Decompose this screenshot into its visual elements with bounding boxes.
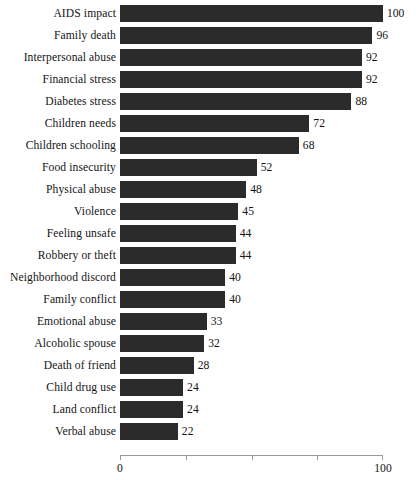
category-label: Food insecurity bbox=[42, 162, 116, 174]
bar bbox=[120, 49, 362, 66]
category-label: Feeling unsafe bbox=[47, 228, 116, 240]
bar bbox=[120, 93, 351, 110]
bar bbox=[120, 423, 178, 440]
value-label: 52 bbox=[261, 162, 273, 174]
bar-row: AIDS impact100 bbox=[0, 5, 416, 22]
bar-row: Violence45 bbox=[0, 203, 416, 220]
category-label: Violence bbox=[74, 206, 116, 218]
bar-row: Food insecurity52 bbox=[0, 159, 416, 176]
bar bbox=[120, 379, 183, 396]
bar-track: 22 bbox=[120, 423, 416, 440]
bar-track: 28 bbox=[120, 357, 416, 374]
bar-row: Robbery or theft44 bbox=[0, 247, 416, 264]
value-label: 40 bbox=[229, 294, 241, 306]
bar-track: 92 bbox=[120, 49, 416, 66]
value-label: 48 bbox=[250, 184, 262, 196]
bar-rows: AIDS impact100Family death96Interpersona… bbox=[0, 5, 416, 445]
bar-track: 44 bbox=[120, 247, 416, 264]
bar-row: Family conflict40 bbox=[0, 291, 416, 308]
bar bbox=[120, 357, 194, 374]
value-label: 96 bbox=[376, 30, 388, 42]
bar bbox=[120, 27, 372, 44]
bar bbox=[120, 181, 246, 198]
category-label: Verbal abuse bbox=[55, 426, 116, 438]
bar-row: Children schooling68 bbox=[0, 137, 416, 154]
category-label: Physical abuse bbox=[46, 184, 116, 196]
category-label: Interpersonal abuse bbox=[24, 52, 116, 64]
category-label: Alcoholic spouse bbox=[34, 338, 116, 350]
axis-tick-label: 100 bbox=[374, 463, 391, 475]
bar-track: 52 bbox=[120, 159, 416, 176]
bar-track: 33 bbox=[120, 313, 416, 330]
value-label: 24 bbox=[187, 404, 199, 416]
horizontal-bar-chart: AIDS impact100Family death96Interpersona… bbox=[0, 0, 416, 480]
category-label: Financial stress bbox=[43, 74, 116, 86]
x-axis: 0100 bbox=[120, 455, 383, 456]
bar-track: 40 bbox=[120, 269, 416, 286]
bar bbox=[120, 401, 183, 418]
axis-tick-label: 0 bbox=[117, 463, 123, 475]
bar-row: Financial stress92 bbox=[0, 71, 416, 88]
value-label: 22 bbox=[182, 426, 194, 438]
bar-track: 88 bbox=[120, 93, 416, 110]
bar bbox=[120, 335, 204, 352]
category-label: Diabetes stress bbox=[45, 96, 116, 108]
category-label: Death of friend bbox=[44, 360, 116, 372]
bar bbox=[120, 137, 299, 154]
bar-row: Diabetes stress88 bbox=[0, 93, 416, 110]
bar bbox=[120, 5, 383, 22]
value-label: 68 bbox=[303, 140, 315, 152]
value-label: 100 bbox=[387, 8, 404, 20]
bar-row: Feeling unsafe44 bbox=[0, 225, 416, 242]
bar bbox=[120, 159, 257, 176]
bar-row: Emotional abuse33 bbox=[0, 313, 416, 330]
bar-track: 92 bbox=[120, 71, 416, 88]
bar-track: 96 bbox=[120, 27, 416, 44]
bar-row: Death of friend28 bbox=[0, 357, 416, 374]
bar-track: 32 bbox=[120, 335, 416, 352]
category-label: Family death bbox=[54, 30, 116, 42]
category-label: Emotional abuse bbox=[37, 316, 116, 328]
bar-row: Land conflict24 bbox=[0, 401, 416, 418]
category-label: Robbery or theft bbox=[38, 250, 116, 262]
value-label: 40 bbox=[229, 272, 241, 284]
category-label: Children schooling bbox=[26, 140, 116, 152]
value-label: 92 bbox=[366, 52, 378, 64]
bar-track: 48 bbox=[120, 181, 416, 198]
bar-track: 24 bbox=[120, 379, 416, 396]
value-label: 45 bbox=[242, 206, 254, 218]
category-label: Family conflict bbox=[43, 294, 116, 306]
axis-tick bbox=[382, 455, 383, 460]
category-label: Child drug use bbox=[46, 382, 116, 394]
bar-track: 44 bbox=[120, 225, 416, 242]
bar bbox=[120, 247, 236, 264]
bar bbox=[120, 291, 225, 308]
value-label: 44 bbox=[240, 228, 252, 240]
value-label: 44 bbox=[240, 250, 252, 262]
value-label: 32 bbox=[208, 338, 220, 350]
bar bbox=[120, 203, 238, 220]
value-label: 72 bbox=[313, 118, 325, 130]
value-label: 33 bbox=[211, 316, 223, 328]
bar bbox=[120, 313, 207, 330]
bar-track: 68 bbox=[120, 137, 416, 154]
bar-row: Verbal abuse22 bbox=[0, 423, 416, 440]
bar bbox=[120, 225, 236, 242]
bar bbox=[120, 269, 225, 286]
bar-row: Children needs72 bbox=[0, 115, 416, 132]
value-label: 28 bbox=[198, 360, 210, 372]
bar bbox=[120, 71, 362, 88]
value-label: 88 bbox=[355, 96, 367, 108]
value-label: 24 bbox=[187, 382, 199, 394]
bar-row: Physical abuse48 bbox=[0, 181, 416, 198]
bar-row: Alcoholic spouse32 bbox=[0, 335, 416, 352]
axis-tick bbox=[186, 455, 187, 460]
bar bbox=[120, 115, 309, 132]
bar-row: Child drug use24 bbox=[0, 379, 416, 396]
category-label: Children needs bbox=[45, 118, 116, 130]
bar-row: Family death96 bbox=[0, 27, 416, 44]
category-label: Neighborhood discord bbox=[10, 272, 116, 284]
value-label: 92 bbox=[366, 74, 378, 86]
bar-track: 72 bbox=[120, 115, 416, 132]
bar-track: 100 bbox=[120, 5, 416, 22]
